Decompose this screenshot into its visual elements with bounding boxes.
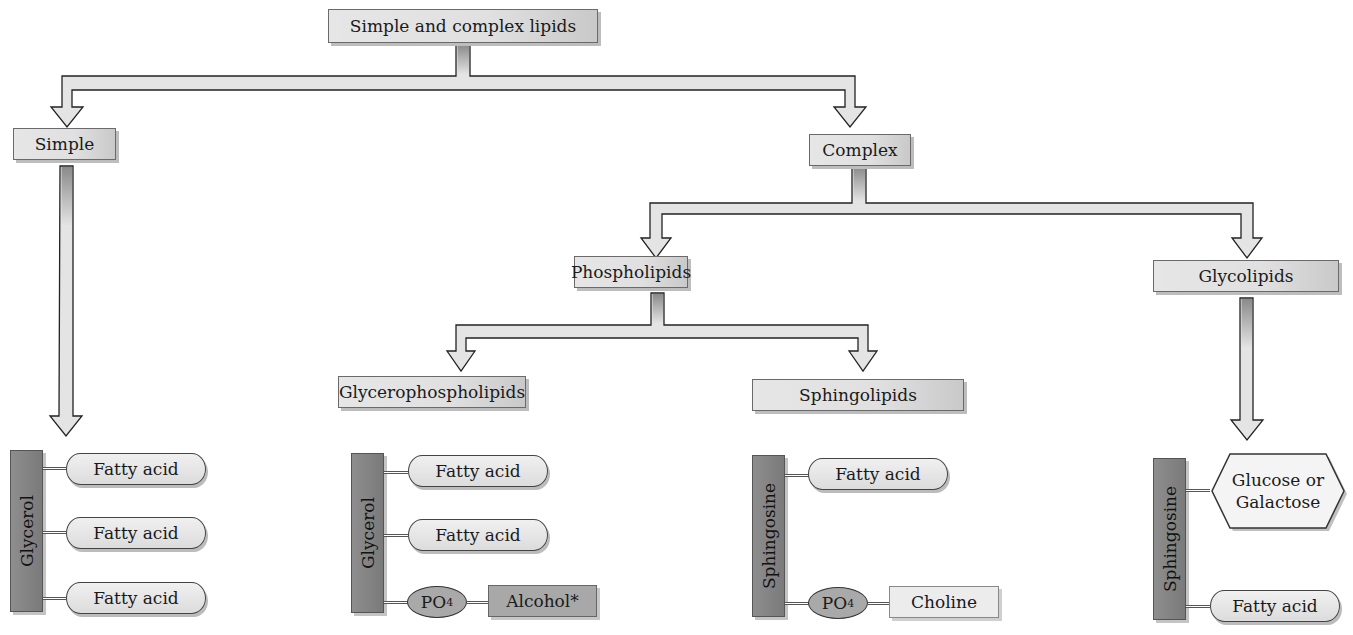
glycerol-label: Glycerol xyxy=(358,497,378,569)
phosphate-subscript: 4 xyxy=(446,596,453,609)
simple-box: Simple xyxy=(13,128,116,160)
fatty-acid-chain: Fatty acid xyxy=(408,519,548,551)
sugar-label: Glucose or Galactose xyxy=(1208,450,1348,532)
fatty-acid-chain: Fatty acid xyxy=(408,455,548,487)
sphingolipids-box: Sphingolipids xyxy=(752,379,964,411)
sphingosine-label: Sphingosine xyxy=(1160,486,1180,592)
title-box: Simple and complex lipids xyxy=(328,9,598,43)
glycolipids-box: Glycolipids xyxy=(1153,260,1339,292)
phosphate-group: PO4 xyxy=(407,586,467,618)
sugar-line-1: Glucose or xyxy=(1232,469,1324,491)
sphingosine-backbone: Sphingosine xyxy=(752,455,785,617)
phosphate-label: PO xyxy=(822,593,847,613)
glycerol-label: Glycerol xyxy=(17,495,37,567)
phosphate-subscript: 4 xyxy=(847,597,854,610)
fatty-acid-chain: Fatty acid xyxy=(808,458,948,490)
fatty-acid-chain: Fatty acid xyxy=(66,582,206,614)
fatty-acid-chain: Fatty acid xyxy=(66,453,206,485)
glycerol-backbone: Glycerol xyxy=(10,450,43,612)
choline-head-group: Choline xyxy=(889,586,999,618)
sugar-line-2: Galactose xyxy=(1236,491,1321,513)
complex-box: Complex xyxy=(809,134,911,166)
bond-line xyxy=(785,474,809,477)
bond-line xyxy=(43,467,66,470)
bond-line xyxy=(1186,605,1210,608)
phosphate-group: PO4 xyxy=(808,587,868,619)
arrow-complex-split xyxy=(641,166,1262,258)
bond-line xyxy=(43,597,66,600)
fatty-acid-chain: Fatty acid xyxy=(66,517,206,549)
bond-line xyxy=(43,531,66,534)
sphingosine-label: Sphingosine xyxy=(759,483,779,589)
bond-line xyxy=(384,471,408,474)
bond-line xyxy=(384,601,408,604)
bond-line xyxy=(868,602,890,605)
phospholipids-box: Phospholipids xyxy=(574,256,688,288)
glycerophospholipids-box: Glycerophospholipids xyxy=(338,376,526,408)
sphingosine-backbone: Sphingosine xyxy=(1153,458,1186,620)
glycerol-backbone: Glycerol xyxy=(351,453,384,613)
bond-line xyxy=(1186,489,1210,492)
fatty-acid-chain: Fatty acid xyxy=(1210,590,1340,622)
bond-line xyxy=(384,534,408,537)
bond-line xyxy=(467,601,488,604)
alcohol-head-group: Alcohol* xyxy=(488,585,597,617)
bond-line xyxy=(785,602,809,605)
phosphate-label: PO xyxy=(421,592,446,612)
